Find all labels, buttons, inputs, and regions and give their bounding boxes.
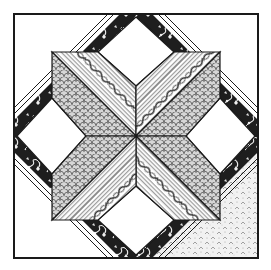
quilt-block-figure: Quilt block illustration: eight-pointed … [0,0,271,270]
quilt-block-svg [0,0,271,270]
